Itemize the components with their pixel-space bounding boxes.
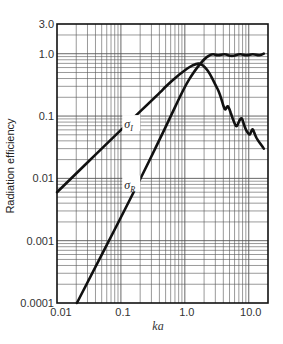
x-axis-label: ka: [152, 319, 163, 333]
series-labels: σIσR: [122, 115, 140, 193]
y-tick-label: 0.01: [33, 172, 54, 184]
x-tick-label: 0.1: [115, 306, 130, 318]
radiation-efficiency-chart: 0.010.11.010.0 3.01.00.10.010.0010.0001 …: [0, 0, 283, 344]
y-tick-label: 0.1: [39, 110, 54, 122]
y-axis-label: Radiation efficiency: [4, 118, 16, 214]
plot-frame: [57, 24, 268, 303]
y-tick-label: 0.0001: [20, 297, 54, 309]
x-tick-label: 10.0: [240, 306, 261, 318]
y-tick-label: 3.0: [39, 18, 54, 30]
x-axis-ticks: 0.010.11.010.0: [50, 306, 261, 318]
y-tick-label: 1.0: [39, 48, 54, 60]
y-axis-ticks: 3.01.00.10.010.0010.0001: [20, 18, 54, 309]
log-grid: [57, 24, 268, 303]
x-tick-label: 1.0: [179, 306, 194, 318]
series-line-i: [57, 64, 264, 193]
y-tick-label: 0.001: [26, 235, 54, 247]
